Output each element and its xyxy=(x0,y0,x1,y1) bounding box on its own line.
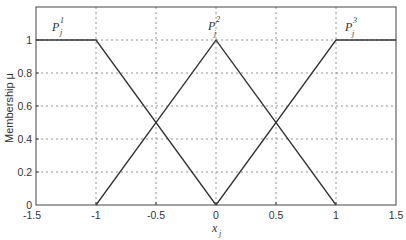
svg-text:j: j xyxy=(59,28,63,37)
y-tick-label: 0 xyxy=(26,199,32,211)
y-tick-label: 0.4 xyxy=(17,133,32,145)
y-tick-label: 0.8 xyxy=(17,67,32,79)
x-tick-label: -0.5 xyxy=(147,209,165,221)
x-tick-label: -1 xyxy=(91,209,100,221)
y-axis-label: Membership μ xyxy=(3,73,15,143)
x-tick-label: 0 xyxy=(213,209,219,221)
y-tick-label: 1 xyxy=(26,34,32,46)
tick-marks xyxy=(36,40,336,205)
series-p3 xyxy=(216,40,396,205)
membership-chart: -1.5 -1 -0.5 0 0.5 1 1.5 0 0.2 0.4 0.6 0… xyxy=(0,0,406,240)
x-axis-label: x j xyxy=(211,221,222,238)
svg-text:P: P xyxy=(51,20,60,34)
svg-text:j: j xyxy=(218,229,222,238)
x-tick-label: 1.5 xyxy=(389,209,404,221)
label-p2: P 2 j xyxy=(207,15,220,38)
label-p3: P 3 j xyxy=(344,16,357,38)
x-tick-label: 1 xyxy=(333,209,339,221)
x-tick-label: 0.5 xyxy=(269,209,284,221)
svg-text:1: 1 xyxy=(60,16,64,25)
svg-text:3: 3 xyxy=(352,16,357,25)
svg-text:x: x xyxy=(211,221,218,235)
y-tick-label: 0.6 xyxy=(17,100,32,112)
x-tick-labels: -1.5 -1 -0.5 0 0.5 1 1.5 xyxy=(23,209,403,221)
label-p1: P 1 j xyxy=(51,16,64,37)
y-tick-label: 0.2 xyxy=(17,166,32,178)
svg-text:2: 2 xyxy=(216,15,220,24)
series-p1 xyxy=(36,40,216,205)
y-tick-labels: 0 0.2 0.4 0.6 0.8 1 xyxy=(17,34,32,211)
svg-text:j: j xyxy=(351,29,355,38)
